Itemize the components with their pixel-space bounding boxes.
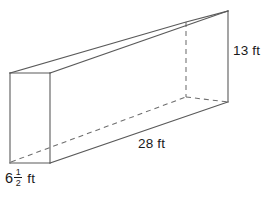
whole-number-part: 6: [5, 171, 13, 186]
fraction: 1 2: [14, 168, 22, 189]
mixed-number: 6 1 2: [5, 168, 23, 189]
fraction-numerator: 1: [15, 168, 22, 178]
fraction-denominator: 2: [15, 178, 22, 188]
prism-drawing: [0, 0, 267, 197]
rectangular-prism-figure: 13 ft 28 ft 6 1 2 ft: [0, 0, 267, 197]
front-face-fill: [10, 11, 228, 163]
depth-unit-label: ft: [27, 172, 35, 186]
length-dimension-label: 28 ft: [138, 137, 165, 151]
height-dimension-label: 13 ft: [233, 44, 260, 58]
depth-dimension-label: 6 1 2 ft: [5, 168, 35, 189]
